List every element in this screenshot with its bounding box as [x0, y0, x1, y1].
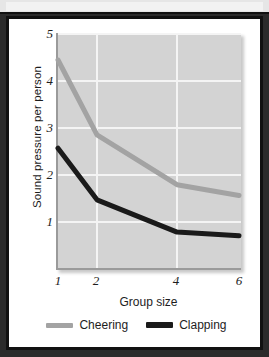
- y-tick-label: 3: [31, 121, 53, 134]
- figure-root: Sound pressure per person 5 4 3 2 1: [0, 0, 269, 357]
- series-layer: [56, 33, 241, 270]
- y-tick-labels: 5 4 3 2 1: [27, 33, 53, 270]
- legend-item-clapping: Clapping: [146, 319, 226, 331]
- y-tick-label: 1: [31, 215, 53, 228]
- legend-swatch-cheering: [46, 323, 73, 328]
- legend-label-clapping: Clapping: [179, 319, 226, 331]
- x-axis-title: Group size: [56, 295, 241, 309]
- x-tick-label: 4: [164, 274, 188, 287]
- x-tick-label: 2: [84, 274, 108, 287]
- x-tick-labels: 1 2 4 6: [56, 274, 241, 292]
- legend-item-cheering: Cheering: [46, 319, 128, 331]
- legend: Cheering Clapping: [29, 319, 244, 331]
- plot-wrapper: Sound pressure per person 5 4 3 2 1: [9, 19, 260, 347]
- legend-label-cheering: Cheering: [79, 319, 128, 331]
- top-strip-inner: [6, 2, 263, 11]
- y-tick-label: 5: [31, 27, 53, 40]
- x-tick-label: 1: [46, 274, 70, 287]
- y-tick-label: 4: [31, 74, 53, 87]
- legend-swatch-clapping: [146, 322, 173, 328]
- y-tick-label: 2: [31, 168, 53, 181]
- chart-frame: Sound pressure per person 5 4 3 2 1: [6, 16, 263, 350]
- series-line-cheering: [58, 60, 239, 196]
- plot-area: [56, 33, 241, 270]
- top-strip: [0, 0, 269, 14]
- x-tick-label: 6: [227, 274, 251, 287]
- chart-card: Sound pressure per person 5 4 3 2 1: [9, 19, 260, 347]
